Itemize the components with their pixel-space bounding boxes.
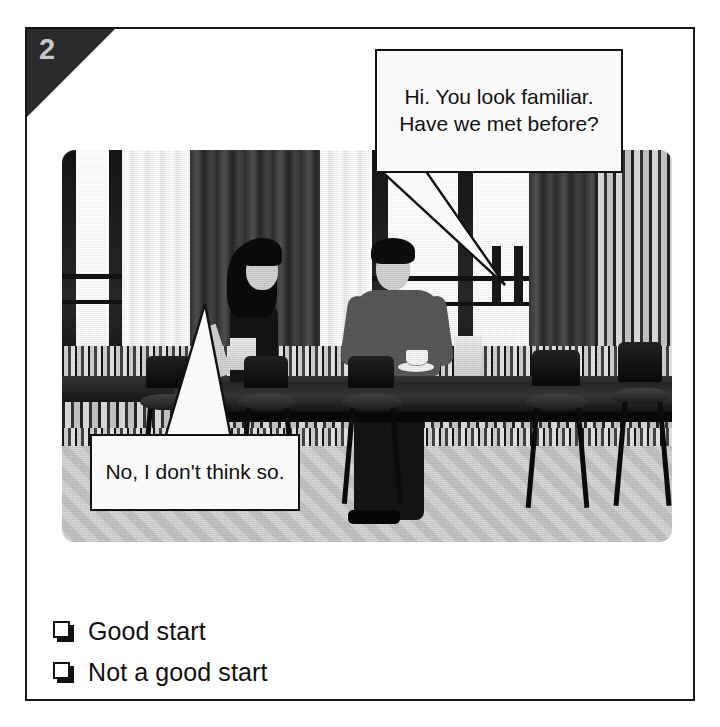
option-row-good-start[interactable]: Good start xyxy=(53,611,613,652)
photo-chair-back xyxy=(532,350,580,386)
speech-bubble-man: Hi. You look familiar. Have we met befor… xyxy=(375,49,623,173)
answer-options: Good start Not a good start xyxy=(53,611,613,693)
photo-woman-hair xyxy=(242,238,282,266)
checkbox-icon[interactable] xyxy=(53,621,74,642)
checkbox-box xyxy=(53,662,70,679)
photo-window-rail xyxy=(62,274,124,279)
option-label-good-start: Good start xyxy=(88,617,206,646)
checkbox-box xyxy=(53,621,70,638)
speech-bubble-tail-man xyxy=(375,167,535,287)
speech-bubble-man-text: Hi. You look familiar. Have we met befor… xyxy=(387,84,611,138)
speech-bubble-woman-text: No, I don't think so. xyxy=(105,459,284,486)
speech-bubble-tail-woman xyxy=(157,304,237,440)
photo-chair-back xyxy=(618,342,662,382)
exercise-number-tab: 2 xyxy=(27,29,115,117)
exercise-number: 2 xyxy=(39,35,79,64)
photo-window-rail xyxy=(62,300,124,304)
worksheet-frame: 2 xyxy=(25,27,695,701)
photo-chair-back xyxy=(244,356,288,388)
photo-man-shoe xyxy=(348,510,400,524)
option-label-not-a-good-start: Not a good start xyxy=(88,658,267,687)
checkbox-icon[interactable] xyxy=(53,662,74,683)
option-row-not-a-good-start[interactable]: Not a good start xyxy=(53,652,613,693)
photo-coffee-cup xyxy=(406,350,428,365)
photo-napkin-holder xyxy=(454,336,482,376)
photo-chair-back xyxy=(348,356,394,388)
speech-bubble-woman: No, I don't think so. xyxy=(90,434,300,511)
